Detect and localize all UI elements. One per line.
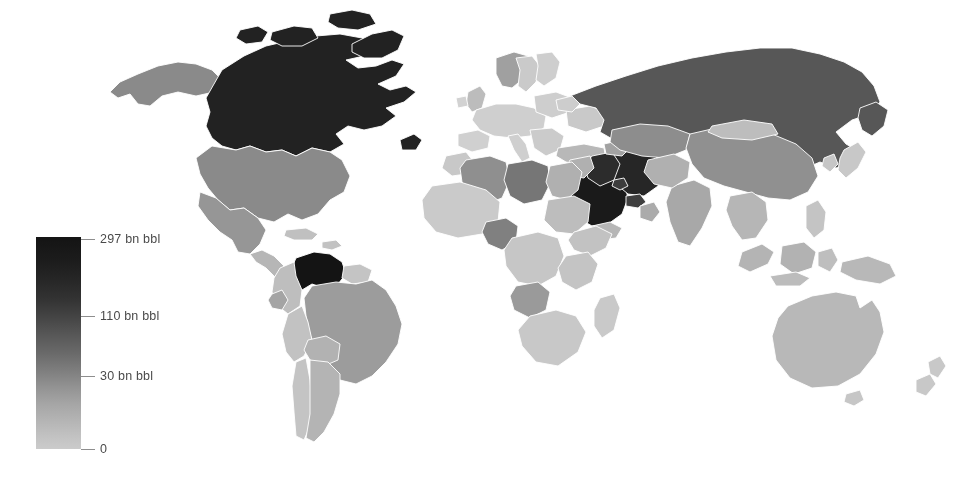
country-finland bbox=[536, 52, 560, 86]
region-central-africa bbox=[504, 232, 564, 286]
colorbar-tick-30 bbox=[81, 376, 95, 377]
island-madagascar bbox=[594, 294, 620, 338]
colorbar-tick-label-0: 0 bbox=[100, 443, 107, 456]
colorbar-tick-0 bbox=[81, 449, 95, 450]
country-libya bbox=[504, 160, 550, 204]
country-italy bbox=[508, 134, 530, 162]
island-banks bbox=[236, 26, 268, 44]
island-java bbox=[770, 272, 810, 286]
island-taiwan-philippines bbox=[806, 200, 826, 238]
country-kenya-tanzania bbox=[558, 252, 598, 290]
colorbar-tick-label-30: 30 bn bbl bbox=[100, 370, 153, 383]
country-australia bbox=[772, 292, 884, 388]
island-tasmania bbox=[844, 390, 864, 406]
country-ireland bbox=[456, 96, 468, 108]
island-cuba bbox=[284, 228, 318, 240]
island-ellesmere bbox=[328, 10, 376, 30]
country-india bbox=[666, 180, 712, 246]
island-sumatra bbox=[738, 244, 774, 272]
island-baffin bbox=[352, 30, 404, 58]
island-sulawesi bbox=[818, 248, 838, 272]
region-southeast-asia bbox=[726, 192, 768, 240]
island-new-zealand-south bbox=[916, 374, 936, 396]
region-kamchatka bbox=[858, 102, 888, 136]
country-greenland bbox=[418, 16, 496, 96]
country-alaska bbox=[110, 62, 222, 106]
island-newfoundland bbox=[400, 134, 422, 150]
island-hispaniola bbox=[322, 240, 342, 250]
country-sudan bbox=[544, 196, 590, 234]
country-argentina bbox=[306, 360, 340, 442]
region-southern-africa bbox=[518, 310, 586, 366]
legend: 297 bn bbl 110 bn bbl 30 bn bbl 0 bbox=[36, 237, 186, 453]
colorbar-tick-label-297: 297 bn bbl bbox=[100, 233, 160, 246]
colorbar-tick-297 bbox=[81, 239, 95, 240]
island-new-guinea bbox=[840, 256, 896, 284]
island-borneo bbox=[780, 242, 816, 274]
colorbar-tick-label-110: 110 bn bbl bbox=[100, 310, 159, 323]
colorbar-gradient bbox=[36, 237, 81, 449]
oil-reserves-choropleth-figure: 297 bn bbl 110 bn bbl 30 bn bbl 0 bbox=[0, 0, 969, 487]
country-oman bbox=[640, 202, 660, 222]
country-spain bbox=[458, 130, 490, 152]
country-sweden bbox=[516, 56, 540, 92]
colorbar-tick-110 bbox=[81, 316, 95, 317]
